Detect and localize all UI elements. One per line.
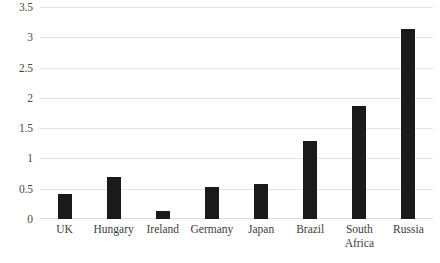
bar bbox=[58, 194, 72, 219]
x-axis-label: South Africa bbox=[333, 222, 385, 250]
bar-slot bbox=[40, 7, 89, 219]
bar bbox=[107, 177, 121, 219]
x-axis-label: Hungary bbox=[88, 222, 140, 236]
y-axis-tick-label: 0 bbox=[27, 213, 33, 225]
y-axis-tick-label: 1 bbox=[27, 152, 33, 164]
bar bbox=[205, 187, 219, 219]
bar-slot bbox=[89, 7, 138, 219]
bar bbox=[156, 211, 170, 219]
bars-layer bbox=[40, 7, 433, 219]
x-axis-label: UK bbox=[39, 222, 91, 236]
y-axis-tick-label: 1.5 bbox=[19, 122, 33, 134]
bar-slot bbox=[237, 7, 286, 219]
bar-slot bbox=[286, 7, 335, 219]
bar-slot bbox=[138, 7, 187, 219]
bar bbox=[401, 29, 415, 219]
bar-slot bbox=[335, 7, 384, 219]
bar-slot bbox=[187, 7, 236, 219]
y-axis-tick-label: 3 bbox=[27, 31, 33, 43]
bar bbox=[254, 184, 268, 219]
y-axis-tick-label: 2 bbox=[27, 92, 33, 104]
x-axis-label: Russia bbox=[382, 222, 434, 236]
x-axis-label: Japan bbox=[235, 222, 287, 236]
y-axis-tick-label: 2.5 bbox=[19, 62, 33, 74]
bar bbox=[303, 141, 317, 219]
y-axis-tick-label: 3.5 bbox=[19, 1, 33, 13]
y-axis-tick-label: 0.5 bbox=[19, 183, 33, 195]
x-axis-label: Germany bbox=[186, 222, 238, 236]
bar bbox=[352, 106, 366, 219]
bar-chart: 00.511.522.533.5 UKHungaryIrelandGermany… bbox=[0, 0, 440, 263]
x-axis-labels: UKHungaryIrelandGermanyJapanBrazilSouth … bbox=[40, 222, 433, 263]
x-axis-label: Brazil bbox=[284, 222, 336, 236]
plot-area: 00.511.522.533.5 bbox=[40, 7, 433, 219]
x-axis-label: Ireland bbox=[137, 222, 189, 236]
bar-slot bbox=[384, 7, 433, 219]
